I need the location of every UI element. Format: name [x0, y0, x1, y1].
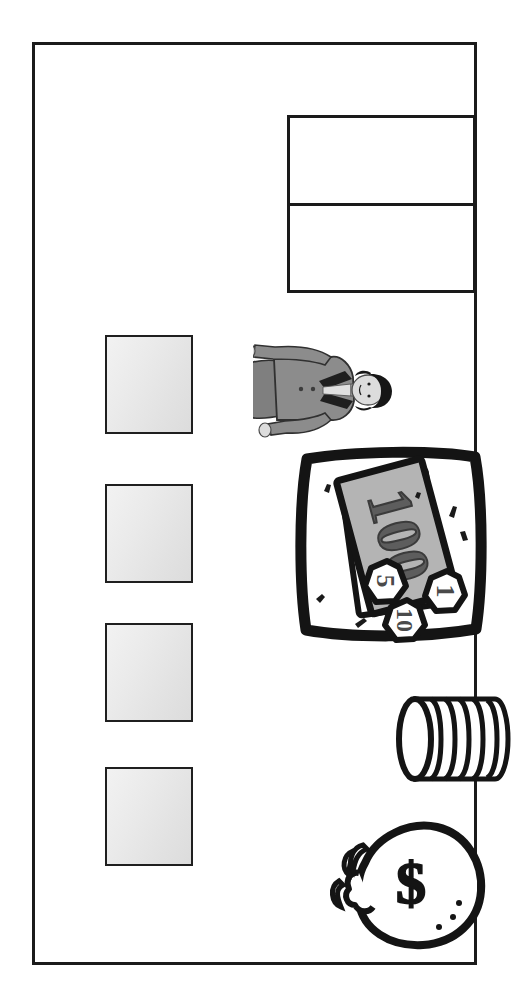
coin-denomination-10: 10	[392, 608, 418, 632]
businessperson-clipart[interactable]	[253, 321, 525, 443]
dollar-sign-icon: $	[396, 850, 426, 916]
cash-and-coins-clipart[interactable]: 100 1 10 5	[293, 443, 489, 643]
slide-border: 100 1 10 5	[32, 42, 477, 965]
money-bag-body: $	[332, 826, 481, 946]
placeholder-box-1[interactable]	[105, 335, 193, 434]
coin-denomination-5: 5	[371, 575, 400, 588]
table-cell-row2[interactable]	[290, 206, 473, 291]
placeholder-box-4[interactable]	[105, 767, 193, 866]
table-row[interactable]	[290, 118, 473, 203]
money-bag-clipart[interactable]: $	[319, 811, 489, 953]
coin-denomination-1: 1	[431, 585, 460, 598]
businessperson-figure	[253, 331, 392, 437]
table-cell-row1[interactable]	[290, 118, 473, 203]
placeholder-box-2[interactable]	[105, 484, 193, 583]
placeholder-box-3[interactable]	[105, 623, 193, 722]
coin-5: 5	[365, 561, 406, 602]
table-row[interactable]	[290, 203, 473, 291]
coin-stack-body	[399, 699, 508, 779]
coin-10: 10	[385, 600, 425, 640]
coin-1: 1	[425, 571, 465, 611]
coin-stack-clipart[interactable]	[387, 687, 513, 791]
content-table[interactable]	[287, 115, 476, 293]
